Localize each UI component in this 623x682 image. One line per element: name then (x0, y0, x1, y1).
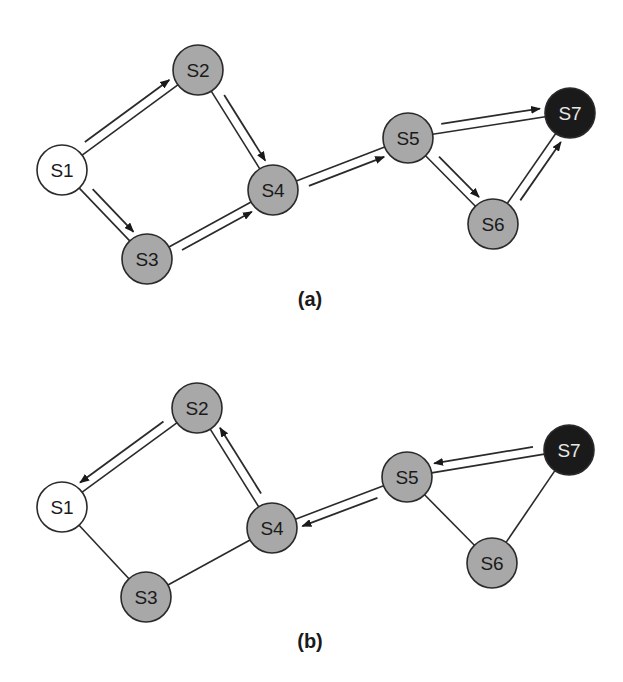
flow-arrow-icon (224, 95, 265, 161)
edge-s1-s3 (79, 188, 129, 241)
node-label: S7 (557, 440, 580, 461)
flow-arrow-icon (520, 142, 561, 200)
node-s3: S3 (121, 572, 171, 622)
node-s7: S7 (545, 88, 595, 138)
node-s5: S5 (382, 452, 432, 502)
edge-s5-s4 (295, 486, 383, 519)
edge-s5-s7 (433, 117, 546, 134)
node-s6: S6 (467, 538, 517, 588)
flow-arrow-icon (182, 212, 252, 250)
edge-s5-s6 (425, 495, 475, 545)
node-s2: S2 (173, 45, 223, 95)
node-label: S5 (396, 128, 419, 149)
node-label: S7 (558, 103, 581, 124)
node-s5: S5 (383, 113, 433, 163)
panel-a-nodes: S1S2S3S4S5S6S7 (37, 45, 595, 284)
node-s4: S4 (248, 165, 298, 215)
node-s7: S7 (544, 425, 594, 475)
edge-s7-s5 (432, 454, 545, 473)
flow-arrow-icon (80, 421, 163, 482)
node-s4: S4 (247, 503, 297, 553)
node-label: S3 (134, 587, 157, 608)
node-s6: S6 (468, 199, 518, 249)
panel-b-nodes: S1S2S3S4S5S6S7 (37, 383, 594, 622)
panel-b: S1S2S3S4S5S6S7 (b) (37, 383, 594, 652)
node-label: S4 (260, 518, 284, 539)
flow-arrow-icon (85, 80, 169, 142)
flow-arrow-icon (441, 109, 540, 124)
node-label: S5 (395, 467, 418, 488)
node-label: S1 (50, 160, 73, 181)
node-s1: S1 (37, 145, 87, 195)
node-label: S2 (186, 60, 209, 81)
edge-s6-s7 (507, 134, 556, 204)
edge-s1-s2 (82, 85, 178, 155)
network-diagram: S1S2S3S4S5S6S7 (a) S1S2S3S4S5S6S7 (b) (0, 0, 623, 682)
flow-arrow-icon (93, 189, 134, 232)
node-label: S3 (135, 249, 158, 270)
panel-a: S1S2S3S4S5S6S7 (a) (37, 45, 595, 310)
node-s2: S2 (172, 383, 222, 433)
edge-s5-s6 (426, 156, 476, 206)
node-s1: S1 (37, 482, 87, 532)
panel-b-caption: (b) (297, 630, 323, 652)
node-label: S6 (480, 553, 503, 574)
edge-s2-s4 (211, 91, 260, 169)
flow-arrow-icon (439, 157, 479, 197)
edge-s4-s2 (210, 429, 259, 507)
edge-s3-s4 (169, 202, 251, 247)
edge-s2-s1 (82, 423, 177, 492)
node-label: S6 (481, 214, 504, 235)
flow-arrow-icon (434, 447, 533, 463)
edge-s1-s3 (79, 525, 129, 578)
panel-a-caption: (a) (298, 288, 322, 310)
flow-arrow-icon (220, 428, 261, 494)
edge-s4-s5 (296, 147, 384, 181)
edge-s6-s7 (506, 471, 555, 543)
edge-s3-s4 (168, 540, 250, 585)
node-label: S4 (261, 180, 285, 201)
node-s3: S3 (122, 234, 172, 284)
node-label: S1 (50, 497, 73, 518)
node-label: S2 (185, 398, 208, 419)
